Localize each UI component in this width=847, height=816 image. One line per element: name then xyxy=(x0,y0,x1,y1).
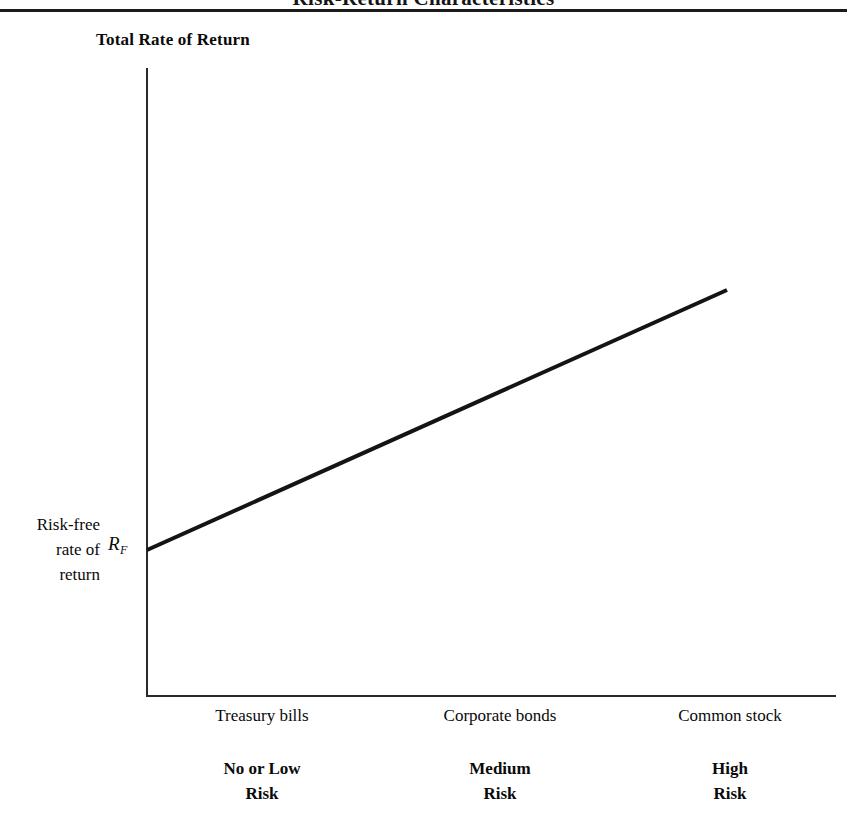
x-risk-label-common-stock: High Risk xyxy=(630,756,830,806)
risk-return-line-segment xyxy=(147,290,727,550)
x-axis-line xyxy=(146,695,836,697)
risk-free-rate-label: Risk-free rate of return xyxy=(0,512,100,587)
risk-free-rate-symbol-base: R xyxy=(108,533,120,554)
risk-free-rate-symbol-subscript: F xyxy=(120,543,127,557)
x-category-label-corporate-bonds: Corporate bonds xyxy=(400,706,600,726)
x-risk-label-treasury-bills: No or Low Risk xyxy=(162,756,362,806)
x-risk-label-common-stock-line2: Risk xyxy=(630,781,830,806)
x-risk-label-corporate-bonds-line1: Medium xyxy=(400,756,600,781)
x-category-label-common-stock: Common stock xyxy=(630,706,830,726)
x-risk-label-treasury-bills-line1: No or Low xyxy=(162,756,362,781)
x-category-label-treasury-bills: Treasury bills xyxy=(162,706,362,726)
x-risk-label-corporate-bonds: Medium Risk xyxy=(400,756,600,806)
title-divider-rule xyxy=(0,9,847,12)
risk-free-rate-label-line1: Risk-free xyxy=(0,512,100,537)
risk-free-rate-label-line2: rate of xyxy=(0,537,100,562)
y-axis-line xyxy=(146,68,148,697)
figure-title: Risk-Return Characteristics xyxy=(0,0,847,6)
x-risk-label-treasury-bills-line2: Risk xyxy=(162,781,362,806)
risk-free-rate-symbol: RF xyxy=(108,533,127,555)
x-risk-label-corporate-bonds-line2: Risk xyxy=(400,781,600,806)
x-risk-label-common-stock-line1: High xyxy=(630,756,830,781)
y-axis-title: Total Rate of Return xyxy=(96,30,250,50)
risk-free-rate-label-line3: return xyxy=(0,562,100,587)
risk-return-line xyxy=(0,0,847,816)
